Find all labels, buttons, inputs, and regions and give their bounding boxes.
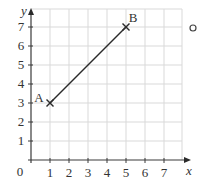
y-tick-label: 2: [18, 114, 25, 129]
x-tick-label: 3: [85, 165, 92, 180]
y-tick-label: 3: [18, 95, 25, 110]
x-tick-label: 4: [104, 165, 111, 180]
x-tick-label: 7: [161, 165, 168, 180]
y-tick-label: 6: [18, 38, 25, 53]
point-a-label: A: [34, 90, 44, 105]
y-tick-label: 4: [18, 76, 25, 91]
y-axis-label: y: [19, 3, 27, 18]
coordinate-grid-chart: 0 1 2 3 4 5 6 7 x 1 2 3 4 5 6 7 y A B: [0, 0, 200, 194]
x-axis-label: x: [185, 163, 192, 178]
point-b-label: B: [129, 10, 138, 25]
y-tick-label: 5: [18, 57, 25, 72]
x-tick-label: 1: [47, 165, 54, 180]
x-tick-label: 5: [123, 165, 130, 180]
y-tick-label: 7: [18, 19, 25, 34]
origin-label: 0: [17, 164, 24, 179]
y-tick-label: 1: [18, 133, 25, 148]
x-tick-label: 6: [142, 165, 149, 180]
grid-lines: [31, 9, 182, 160]
circle-marker-icon: [190, 25, 196, 31]
x-tick-label: 2: [66, 165, 73, 180]
